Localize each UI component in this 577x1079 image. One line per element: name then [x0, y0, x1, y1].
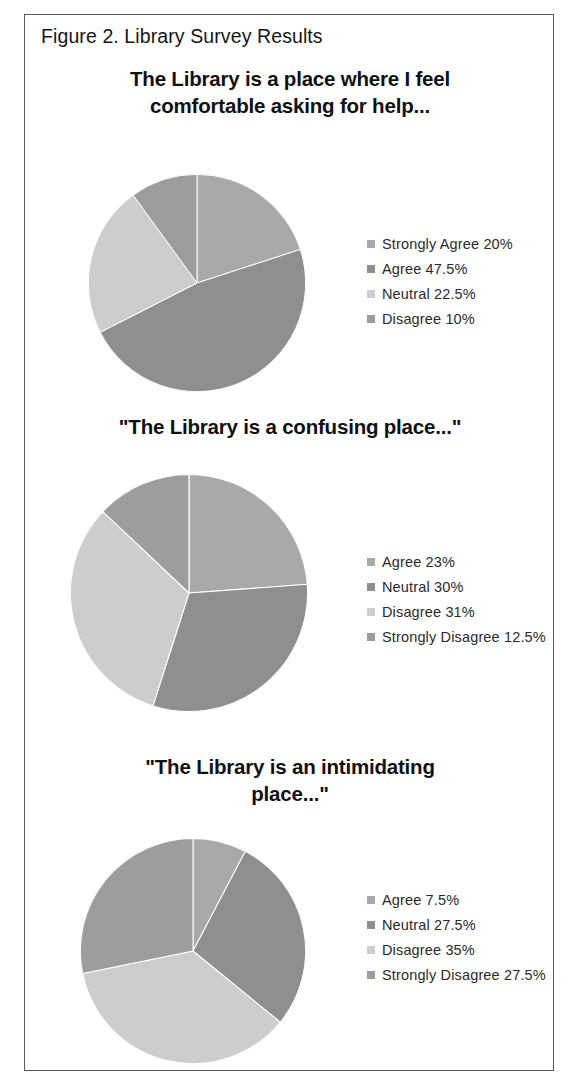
pie-chart-graphic — [87, 173, 307, 393]
legend-swatch-icon — [367, 558, 375, 566]
chart-body-3: Agree 7.5%Neutral 27.5%Disagree 35%Stron… — [25, 815, 555, 1075]
legend-item[interactable]: Strongly Disagree 27.5% — [367, 962, 546, 987]
legend-swatch-icon — [367, 633, 375, 641]
chart-block-1: The Library is a place where I feelcomfo… — [25, 65, 555, 119]
legend-label: Strongly Disagree 27.5% — [382, 967, 546, 983]
pie-slice — [80, 838, 193, 973]
legend-label: Disagree 10% — [382, 311, 475, 327]
legend-swatch-icon — [367, 921, 375, 929]
legend-item[interactable]: Neutral 30% — [367, 574, 546, 599]
legend-label: Neutral 27.5% — [382, 917, 476, 933]
legend-swatch-icon — [367, 583, 375, 591]
legend-item[interactable]: Agree 7.5% — [367, 887, 546, 912]
legend-label: Neutral 30% — [382, 579, 463, 595]
legend-item[interactable]: Disagree 31% — [367, 599, 546, 624]
chart-legend: Agree 23%Neutral 30%Disagree 31%Strongly… — [367, 549, 546, 649]
legend-label: Strongly Agree 20% — [382, 236, 513, 252]
pie-chart — [79, 837, 307, 1065]
chart-title: The Library is a place where I feelcomfo… — [25, 65, 555, 119]
legend-label: Agree 23% — [382, 554, 455, 570]
legend-label: Disagree 35% — [382, 942, 475, 958]
legend-item[interactable]: Agree 23% — [367, 549, 546, 574]
legend-swatch-icon — [367, 290, 375, 298]
pie-chart-graphic — [79, 837, 307, 1065]
chart-title-line: comfortable asking for help... — [45, 92, 535, 119]
pie-chart-graphic — [69, 473, 309, 713]
legend-swatch-icon — [367, 240, 375, 248]
legend-item[interactable]: Disagree 35% — [367, 937, 546, 962]
chart-title: "The Library is an intimidatingplace..." — [25, 753, 555, 807]
legend-item[interactable]: Strongly Agree 20% — [367, 231, 513, 256]
legend-swatch-icon — [367, 265, 375, 273]
chart-title-line: "The Library is a confusing place..." — [45, 413, 535, 440]
legend-label: Agree 47.5% — [382, 261, 468, 277]
legend-item[interactable]: Neutral 27.5% — [367, 912, 546, 937]
pie-chart — [87, 173, 307, 393]
legend-swatch-icon — [367, 946, 375, 954]
chart-block-2: "The Library is a confusing place..." — [25, 413, 555, 440]
legend-label: Neutral 22.5% — [382, 286, 476, 302]
chart-title: "The Library is a confusing place..." — [25, 413, 555, 440]
legend-swatch-icon — [367, 608, 375, 616]
legend-item[interactable]: Disagree 10% — [367, 306, 513, 331]
legend-swatch-icon — [367, 896, 375, 904]
chart-title-line: "The Library is an intimidating — [45, 753, 535, 780]
chart-block-3: "The Library is an intimidatingplace..." — [25, 753, 555, 807]
legend-label: Disagree 31% — [382, 604, 475, 620]
chart-body-2: Agree 23%Neutral 30%Disagree 31%Strongly… — [25, 445, 555, 723]
legend-item[interactable]: Agree 47.5% — [367, 256, 513, 281]
chart-legend: Strongly Agree 20%Agree 47.5%Neutral 22.… — [367, 231, 513, 331]
chart-legend: Agree 7.5%Neutral 27.5%Disagree 35%Stron… — [367, 887, 546, 987]
chart-title-line: The Library is a place where I feel — [45, 65, 535, 92]
legend-item[interactable]: Strongly Disagree 12.5% — [367, 624, 546, 649]
figure-frame: Figure 2. Library Survey Results The Lib… — [24, 14, 554, 1071]
chart-body-1: Strongly Agree 20%Agree 47.5%Neutral 22.… — [25, 145, 555, 403]
figure-caption: Figure 2. Library Survey Results — [41, 25, 323, 48]
pie-slice — [189, 474, 307, 593]
legend-label: Strongly Disagree 12.5% — [382, 629, 546, 645]
pie-chart — [69, 473, 309, 713]
legend-swatch-icon — [367, 315, 375, 323]
legend-item[interactable]: Neutral 22.5% — [367, 281, 513, 306]
legend-label: Agree 7.5% — [382, 892, 459, 908]
chart-title-line: place..." — [45, 780, 535, 807]
legend-swatch-icon — [367, 971, 375, 979]
